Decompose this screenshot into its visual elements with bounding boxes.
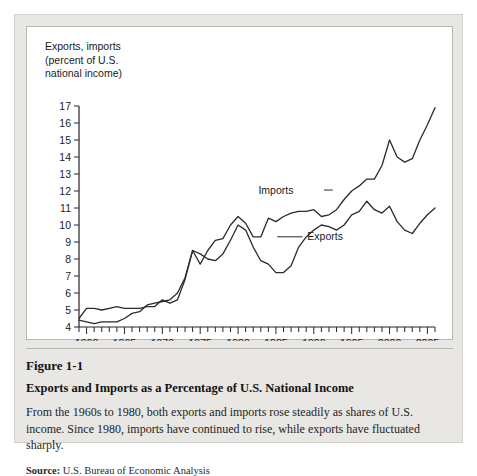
figure-number: Figure 1-1	[26, 358, 453, 374]
y-tick-label: 16	[59, 117, 71, 129]
x-tick-label: 1995	[340, 337, 364, 341]
y-tick-label: 5	[65, 304, 71, 316]
chart-plot: 4567891011121314151617 19601965197019751…	[27, 27, 454, 341]
y-tick-label: 12	[59, 185, 71, 197]
source-label: Source:	[26, 465, 60, 476]
y-tick-label: 10	[59, 219, 71, 231]
x-axis-ticks: 1960196519701975198019851990199520002005	[75, 327, 439, 341]
caption-block: Figure 1-1 Exports and Imports as a Perc…	[26, 348, 453, 476]
chart-panel: Exports, imports (percent of U.S. nation…	[26, 26, 453, 340]
figure-card: Exports, imports (percent of U.S. nation…	[14, 14, 463, 443]
series-annotations: ImportsExports	[258, 184, 343, 243]
y-tick-label: 14	[59, 151, 71, 163]
x-tick-label: 1970	[151, 337, 175, 341]
figure-title: Exports and Imports as a Percentage of U…	[26, 381, 453, 396]
y-tick-label: 15	[59, 134, 71, 146]
source-text: U.S. Bureau of Economic Analysis	[63, 465, 210, 476]
axis-lines	[79, 106, 435, 327]
y-tick-label: 6	[65, 287, 71, 299]
series-label-exports: Exports	[307, 230, 343, 242]
x-tick-label: 1980	[226, 337, 250, 341]
x-tick-label: 1985	[264, 337, 288, 341]
series-line-imports	[79, 108, 435, 324]
caption-divider	[26, 348, 453, 349]
x-tick-label: 1975	[189, 337, 213, 341]
y-tick-label: 17	[59, 100, 71, 112]
y-tick-label: 7	[65, 270, 71, 282]
series-label-imports: Imports	[258, 184, 293, 196]
series-line-exports	[79, 201, 435, 318]
y-axis-ticks: 4567891011121314151617	[59, 100, 79, 333]
x-tick-label: 1965	[113, 337, 137, 341]
data-series-group	[79, 108, 435, 324]
x-tick-label: 1990	[302, 337, 326, 341]
figure-source: Source: U.S. Bureau of Economic Analysis	[26, 465, 453, 476]
y-tick-label: 8	[65, 253, 71, 265]
x-tick-label: 2000	[378, 337, 402, 341]
y-tick-label: 11	[60, 202, 71, 214]
y-tick-label: 13	[59, 168, 71, 180]
y-tick-label: 4	[65, 321, 71, 333]
x-tick-label: 2005	[416, 337, 440, 341]
y-tick-label: 9	[65, 236, 71, 248]
figure-description: From the 1960s to 1980, both exports and…	[26, 404, 453, 454]
x-tick-label: 1960	[75, 337, 99, 341]
